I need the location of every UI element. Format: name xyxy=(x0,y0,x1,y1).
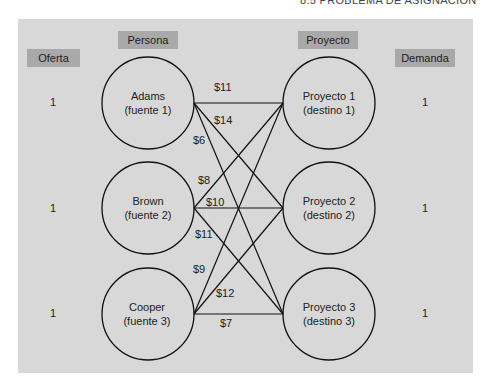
cost-label-brown-p3: $11 xyxy=(195,228,213,240)
demand-header: Demanda xyxy=(395,49,455,67)
person-header: Persona xyxy=(118,31,178,49)
cost-label-cooper-p3: $7 xyxy=(220,317,232,329)
demand-value: 1 xyxy=(415,307,435,319)
cost-label-adams-p1: $11 xyxy=(214,81,232,93)
node-name: Brown xyxy=(103,194,193,208)
cost-label-cooper-p1: $9 xyxy=(193,263,205,275)
supply-value: 1 xyxy=(43,96,63,108)
cost-label-adams-p3: $6 xyxy=(193,134,205,146)
dest-label-p2: Proyecto 2 (destino 2) xyxy=(284,194,374,222)
dest-label-p1: Proyecto 1 (destino 1) xyxy=(284,89,374,117)
source-label-brown: Brown (fuente 2) xyxy=(103,194,193,222)
source-label-adams: Adams (fuente 1) xyxy=(103,89,193,117)
demand-value: 1 xyxy=(415,202,435,214)
node-name: Proyecto 1 xyxy=(284,89,374,103)
dest-label-p3: Proyecto 3 (destino 3) xyxy=(284,300,374,328)
cost-label-cooper-p2: $12 xyxy=(216,287,234,299)
node-name: Adams xyxy=(103,89,193,103)
node-role: (destino 3) xyxy=(284,314,374,328)
node-role: (fuente 1) xyxy=(103,103,193,117)
node-role: (fuente 3) xyxy=(102,314,192,328)
supply-value: 1 xyxy=(43,307,63,319)
cost-label-brown-p2: $10 xyxy=(206,196,224,208)
cost-label-brown-p1: $8 xyxy=(198,174,210,186)
project-header: Proyecto xyxy=(298,31,358,49)
node-role: (fuente 2) xyxy=(103,208,193,222)
node-name: Cooper xyxy=(102,300,192,314)
source-label-cooper: Cooper (fuente 3) xyxy=(102,300,192,328)
node-role: (destino 1) xyxy=(284,103,374,117)
supply-header: Oferta xyxy=(27,49,80,67)
node-role: (destino 2) xyxy=(284,208,374,222)
demand-value: 1 xyxy=(415,96,435,108)
node-name: Proyecto 3 xyxy=(284,300,374,314)
cost-label-adams-p2: $14 xyxy=(214,114,232,126)
supply-value: 1 xyxy=(43,202,63,214)
node-name: Proyecto 2 xyxy=(284,194,374,208)
